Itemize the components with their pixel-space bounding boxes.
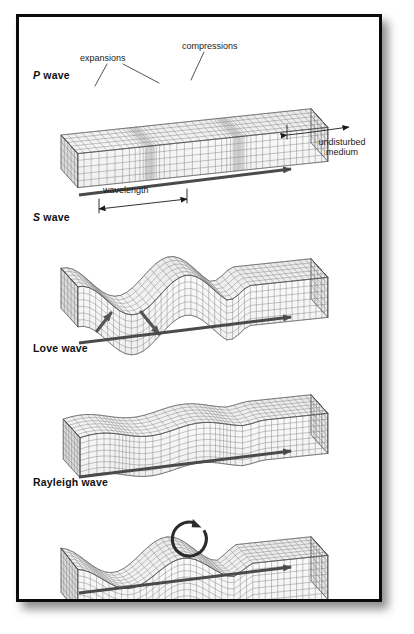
panel-label-s-wave: S wave xyxy=(33,211,70,223)
figure-root: P wave S wave Love wave Rayleigh wave ex… xyxy=(0,0,414,634)
annotation-undisturbed-medium: undisturbed medium xyxy=(309,137,375,158)
panel-label-rayleigh-wave: Rayleigh wave xyxy=(33,476,108,488)
panel-label-love-wave: Love wave xyxy=(33,342,88,354)
seismic-wave-illustration xyxy=(19,17,379,599)
annotation-wavelength: wavelength xyxy=(103,185,149,195)
panel-label-love-wave-text: Love wave xyxy=(33,342,88,354)
annotation-wavelength-text: wavelength xyxy=(103,185,149,195)
panel-label-p-wave: P wave xyxy=(33,69,70,81)
figure-frame: P wave S wave Love wave Rayleigh wave ex… xyxy=(16,14,382,602)
wavelength-dimension-arrow xyxy=(99,199,187,209)
annotation-expansions-text: expansions xyxy=(80,53,126,63)
panel-label-p-wave-rest: wave xyxy=(40,69,70,81)
annotation-compressions: compressions xyxy=(182,41,238,51)
annotation-compressions-text: compressions xyxy=(182,41,238,51)
annotation-expansions: expansions xyxy=(80,53,126,63)
annotation-undisturbed-medium-line1: undisturbed xyxy=(318,137,365,147)
panel-label-s-wave-rest: wave xyxy=(40,211,70,223)
annotation-undisturbed-medium-line2: medium xyxy=(326,147,358,157)
panel-label-rayleigh-wave-text: Rayleigh wave xyxy=(33,476,108,488)
